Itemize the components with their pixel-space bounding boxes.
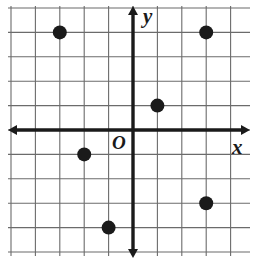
x-axis-left-arrow — [8, 125, 17, 135]
point-e — [199, 196, 213, 210]
point-f — [102, 221, 116, 235]
point-a — [53, 25, 67, 39]
coordinate-plane-canvas — [0, 0, 258, 269]
y-axis-up-arrow — [128, 6, 138, 15]
origin-label: O — [112, 133, 126, 152]
axes — [8, 6, 250, 258]
point-d — [77, 147, 91, 161]
x-axis-label: x — [232, 137, 243, 158]
y-axis-label: y — [143, 6, 152, 27]
point-c — [150, 99, 164, 113]
x-axis-right-arrow — [241, 125, 250, 135]
coordinate-plane-figure: y x O — [0, 0, 258, 269]
y-axis-down-arrow — [128, 249, 138, 258]
point-b — [199, 25, 213, 39]
